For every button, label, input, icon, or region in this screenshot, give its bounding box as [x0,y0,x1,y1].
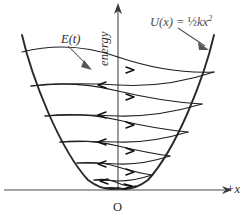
callout-potential-arrowhead-icon [198,42,209,50]
diagram-canvas [0,0,251,223]
energy-curve-label: E(t) [61,32,80,47]
callout-energy-arrowhead-icon [81,60,92,70]
energy-axis [114,3,122,190]
spiral-arrow-right-5 [126,169,134,175]
spiral-turn-3 [31,84,202,104]
spiral-arrow-right-1 [126,67,134,73]
spiral-turn-5 [45,115,188,132]
potential-equals-sign: = [176,15,184,29]
physics-diagram: energy E(t) U(x) = ½kx2 +x O [0,0,251,223]
origin-label: O [113,200,122,215]
potential-exponent: 2 [208,13,212,23]
callout-potential-line [178,28,205,46]
x-axis-label: +x [226,182,240,197]
potential-coefficient: ½ [188,15,197,29]
spiral-turn-7 [60,141,170,156]
energy-axis-label: energy [97,31,112,66]
potential-function-name: U(x) [150,15,173,29]
potential-function-label: U(x) = ½kx2 [150,13,212,30]
callout-potential-curve [178,28,209,50]
